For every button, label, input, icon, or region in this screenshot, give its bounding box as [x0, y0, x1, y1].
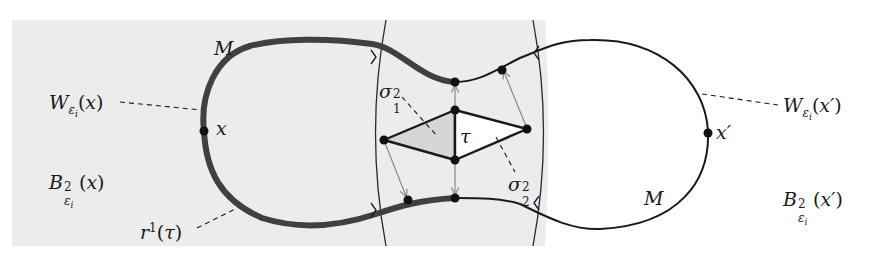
label-retraction: r1(τ)	[140, 222, 182, 242]
diagram-canvas	[0, 0, 877, 266]
label-point-x-prime: x′	[716, 123, 731, 142]
point-x	[200, 127, 209, 136]
label-wall-right: Wεi(x′)	[783, 96, 842, 122]
label-wall-left: Wεi(x)	[49, 93, 103, 119]
label-ball-left: B2εi(x)	[49, 173, 105, 192]
label-sigma-1: σ21	[379, 82, 402, 101]
label-point-x: x	[216, 119, 227, 138]
point-x-prime	[704, 129, 713, 138]
label-manifold-right: M	[644, 189, 663, 208]
label-sigma-2: σ22	[508, 175, 531, 194]
label-ball-right: B2εi(x′)	[783, 190, 843, 209]
label-tau: τ	[460, 127, 471, 146]
label-manifold-left: M	[214, 39, 233, 58]
